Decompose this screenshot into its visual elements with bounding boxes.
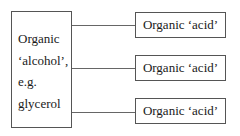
alcohol-line-1: Organic (18, 28, 71, 50)
connector-line-1 (72, 25, 135, 26)
alcohol-line-3: e.g. (18, 71, 71, 93)
acid-box-1: Organic ‘acid’ (135, 12, 226, 38)
connector-line-3 (72, 112, 135, 113)
connector-line-2 (72, 68, 135, 69)
alcohol-line-4: glycerol (18, 93, 71, 115)
acid-label-3: Organic ‘acid’ (143, 103, 218, 118)
alcohol-box: Organic ‘alcohol’, e.g. glycerol (11, 11, 72, 128)
acid-box-2: Organic ‘acid’ (135, 55, 226, 81)
acid-label-1: Organic ‘acid’ (143, 17, 218, 32)
acid-label-2: Organic ‘acid’ (143, 60, 218, 75)
alcohol-line-2: ‘alcohol’, (18, 50, 71, 72)
acid-box-3: Organic ‘acid’ (135, 98, 226, 124)
